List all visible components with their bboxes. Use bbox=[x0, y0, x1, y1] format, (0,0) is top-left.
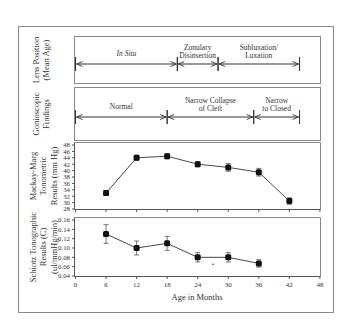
x-tick-label: 18 bbox=[164, 281, 172, 289]
data-point bbox=[256, 260, 262, 266]
data-point bbox=[195, 254, 201, 260]
segment-label: of Cleft bbox=[199, 104, 223, 113]
data-point bbox=[103, 190, 109, 196]
x-tick-label: 30 bbox=[225, 281, 233, 289]
segment-label: In Situ bbox=[116, 49, 137, 58]
segment-label: Normal bbox=[110, 102, 133, 111]
y-tick-label: 0.10 bbox=[58, 244, 70, 251]
data-point bbox=[134, 245, 140, 251]
panel-ylabel: Lens Position bbox=[31, 36, 41, 83]
panel-ylabel: (ul/mmHg/min) bbox=[49, 220, 59, 274]
x-tick-label: 6 bbox=[104, 281, 108, 289]
x-tick-label: 42 bbox=[286, 281, 294, 289]
data-point bbox=[195, 161, 201, 167]
timeline-0: In SituZonularyDisinsertionSubluxation/L… bbox=[76, 43, 300, 71]
y-tick-label: 0.16 bbox=[58, 216, 70, 223]
panel-ylabel: Tonometric bbox=[38, 156, 48, 195]
data-point bbox=[164, 153, 170, 159]
panel-ylabel: (Mean Age) bbox=[41, 39, 51, 80]
line-panel-0: 4846444240383634323028 bbox=[63, 141, 320, 212]
data-point bbox=[286, 198, 292, 204]
panel-ylabel: Findings bbox=[41, 99, 51, 129]
y-tick-label: 0.12 bbox=[58, 235, 70, 242]
x-tick-label: 12 bbox=[133, 281, 141, 289]
data-line bbox=[106, 234, 259, 263]
y-tick-label: 0.14 bbox=[58, 226, 70, 233]
data-point bbox=[225, 254, 231, 260]
x-axis-title: Age in Months bbox=[172, 292, 223, 302]
ocular-findings-chart: In SituZonularyDisinsertionSubluxation/L… bbox=[0, 0, 346, 334]
y-tick-label: 28 bbox=[63, 205, 70, 212]
x-tick-label: 0 bbox=[74, 281, 78, 289]
panel-ylabel: Schiotz Tonographic bbox=[28, 212, 38, 283]
data-point bbox=[225, 164, 231, 170]
timeline-1: NormalNarrow Collapseof CleftNarrowto Cl… bbox=[76, 96, 300, 124]
panel-ylabel: Results (mm Hg) bbox=[49, 147, 59, 206]
annotation-dot bbox=[212, 263, 214, 265]
x-tick-label: 36 bbox=[255, 281, 263, 289]
y-tick-label: 0.06 bbox=[58, 263, 70, 270]
panel-ylabel: Gonioscopic bbox=[31, 92, 41, 135]
data-point bbox=[134, 155, 140, 161]
data-point bbox=[256, 169, 262, 175]
data-point bbox=[164, 240, 170, 246]
line-panel-1: 0.160.140.120.100.080.060.04 bbox=[58, 216, 320, 279]
segment-label: Luxation bbox=[245, 51, 272, 60]
y-tick-label: 0.04 bbox=[58, 272, 70, 279]
panel-ylabel: Mackay-Marg bbox=[28, 151, 38, 200]
x-tick-label: 24 bbox=[194, 281, 202, 289]
panel-ylabel: Results (C) bbox=[38, 228, 48, 267]
data-point bbox=[103, 231, 109, 237]
x-tick-label: 48 bbox=[316, 281, 324, 289]
segment-label: to Closed bbox=[262, 104, 291, 113]
y-tick-label: 0.08 bbox=[58, 254, 70, 261]
segment-label: Disinsertion bbox=[179, 51, 216, 60]
